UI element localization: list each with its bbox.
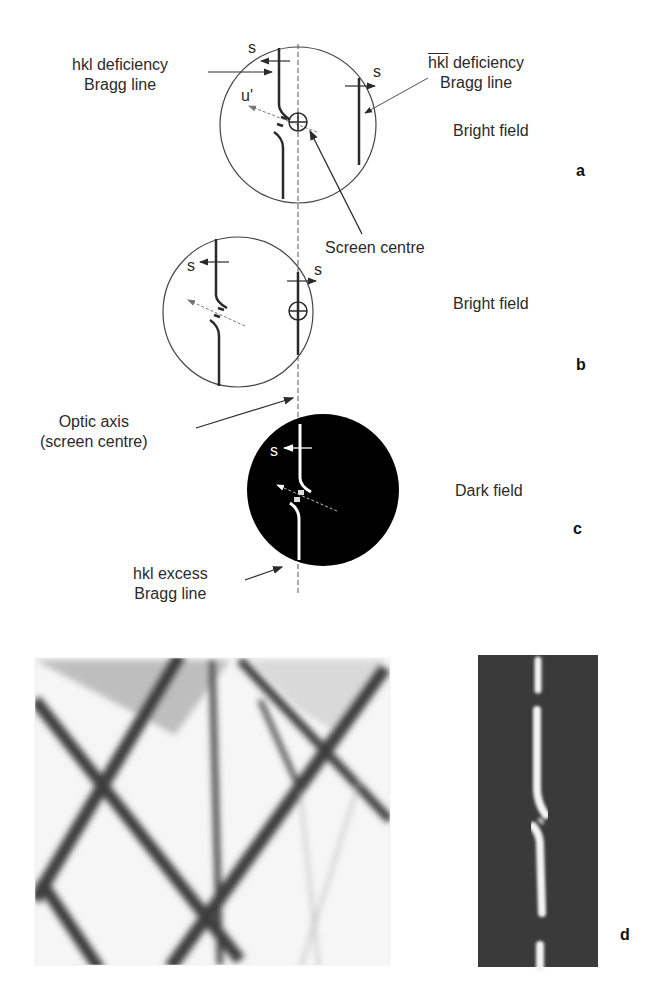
optic-axis-label: Optic axis (screen centre) — [40, 412, 148, 452]
hkl-bar-deficiency-label-line1: hkl deficiency — [428, 53, 524, 73]
panel-a-mode-label: Bright field — [453, 121, 529, 141]
panel-b-mode-label: Bright field — [453, 294, 529, 314]
optic-axis-label-line2: (screen centre) — [40, 432, 148, 452]
hkl-bar-deficiency-label-line2: Bragg line — [428, 73, 524, 93]
diagram-canvas — [0, 0, 659, 1003]
panel-b-bragg-line-upper — [216, 239, 227, 308]
panel-c-mode-label: Dark field — [455, 481, 523, 501]
panel-d-bright-field-micrograph — [35, 655, 390, 980]
screen-centre-label: Screen centre — [325, 238, 425, 258]
panel-b-circle — [163, 237, 313, 387]
deficiency-text: deficiency — [448, 54, 524, 71]
panel-a-bragg-line-lower — [274, 132, 283, 199]
panel-a-right-pointer — [365, 78, 428, 113]
panel-a-bragg-line-upper — [279, 48, 290, 120]
panel-a-diagram — [208, 47, 428, 234]
panel-b-u-arrow — [188, 300, 245, 326]
screen-centre-pointer — [310, 131, 362, 234]
panel-c-letter: c — [573, 520, 582, 538]
panel-c-dark-disc — [247, 414, 399, 566]
panel-c-s-label: s — [270, 441, 278, 461]
panel-a-letter: a — [576, 162, 585, 180]
hkl-bar-text: hkl — [428, 54, 448, 71]
panel-c-diagram — [245, 414, 399, 580]
panel-b-letter: b — [576, 356, 586, 374]
hkl-deficiency-label-line1: hkl deficiency — [72, 55, 168, 75]
panel-b-s-right-label: s — [314, 260, 322, 280]
hkl-bar-deficiency-label: hkl deficiency Bragg line — [428, 53, 524, 93]
panel-a-s-left-label: s — [248, 38, 256, 58]
optic-axis-label-line1: Optic axis — [40, 412, 148, 432]
panel-b-bragg-line-lower — [210, 320, 219, 386]
hkl-deficiency-label-line2: Bragg line — [72, 75, 168, 95]
panel-d-dark-field-micrograph — [478, 655, 598, 968]
panel-a-s-right-label: s — [373, 62, 381, 82]
hkl-excess-label-line2: Bragg line — [133, 584, 208, 604]
panel-a-u-label: u' — [241, 86, 253, 106]
panel-b-s-left-label: s — [187, 256, 195, 276]
panel-b-diagram — [163, 237, 316, 428]
hkl-deficiency-label: hkl deficiency Bragg line — [72, 55, 168, 95]
optic-axis-pointer — [196, 398, 293, 428]
hkl-excess-label: hkl excess Bragg line — [133, 564, 208, 604]
excess-pointer — [245, 567, 282, 580]
panel-d-letter: d — [620, 926, 630, 944]
hkl-excess-label-line1: hkl excess — [133, 564, 208, 584]
